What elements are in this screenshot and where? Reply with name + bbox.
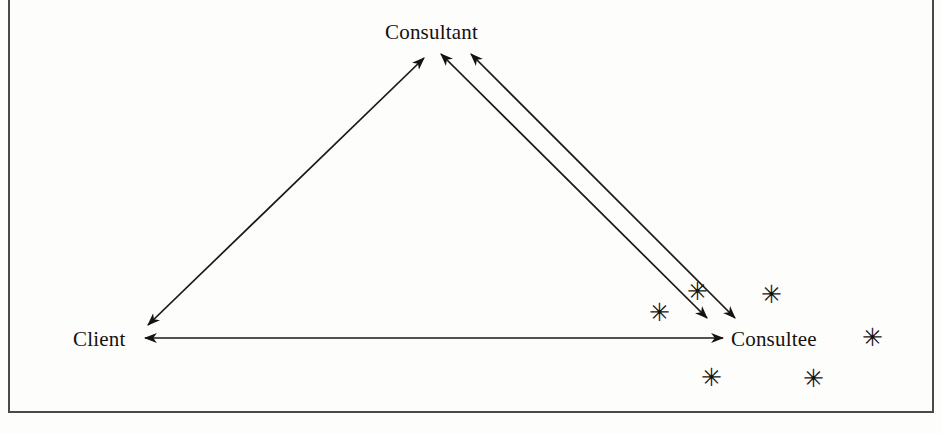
connector-consultee-consultant-inner [441,54,707,318]
node-label-consultant: Consultant [385,20,478,45]
node-label-consultee: Consultee [731,327,817,352]
asterisk-icon-1: ✳ [649,300,667,318]
node-label-client: Client [73,327,126,352]
asterisk-icon-6: ✳ [803,366,821,384]
asterisk-icon-2: ✳ [687,279,705,297]
asterisk-icon-3: ✳ [761,282,779,300]
diagram-canvas [0,0,942,434]
consultation-triangle-figure: Consultant Client Consultee ✳ ✳ ✳ ✳ ✳ ✳ [0,0,942,434]
connector-client-consultant [148,58,424,325]
asterisk-icon-5: ✳ [701,365,719,383]
asterisk-icon-4: ✳ [862,325,880,343]
